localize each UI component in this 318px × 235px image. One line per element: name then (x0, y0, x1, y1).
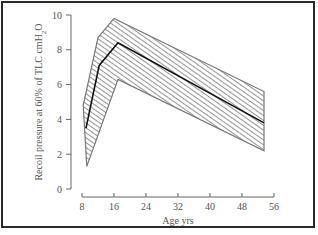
y-tick-label: 8 (57, 44, 62, 55)
x-axis: 8162432404856 (80, 193, 280, 212)
x-tick-label: 48 (237, 201, 247, 212)
x-axis-title: Age yrs (162, 215, 193, 226)
y-tick-label: 2 (57, 149, 62, 160)
y-tick-label: 4 (57, 114, 62, 125)
x-tick-label: 24 (141, 201, 151, 212)
chart-canvas: 0246810 8162432404856 Age yrs Recoil pre… (0, 0, 318, 235)
x-tick-label: 56 (269, 201, 279, 212)
y-tick-label: 0 (57, 184, 62, 195)
y-tick-label: 10 (52, 10, 62, 21)
x-tick-label: 32 (173, 201, 183, 212)
range-band (83, 18, 264, 166)
x-tick-label: 16 (109, 201, 119, 212)
y-tick-label: 6 (57, 79, 62, 90)
x-tick-label: 8 (80, 201, 85, 212)
y-axis: 0246810 (52, 10, 71, 195)
y-axis-title: Recoil pressure at 60% of TLC cmH2O (33, 23, 48, 180)
x-tick-label: 40 (205, 201, 215, 212)
